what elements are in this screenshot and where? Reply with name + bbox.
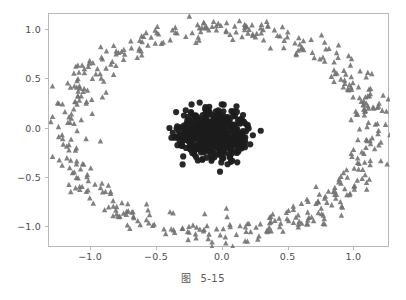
data-point-triangle [103,89,109,94]
data-point-circle [200,112,206,118]
data-point-triangle [304,196,310,201]
data-point-circle [235,146,241,152]
data-point-circle [187,141,193,147]
data-point-circle [188,101,194,107]
x-tick-mark [90,247,91,250]
data-point-triangle [342,186,348,191]
data-point-triangle [71,121,77,126]
data-point-triangle [248,229,254,234]
data-point-triangle [348,117,354,122]
data-point-triangle [322,39,328,44]
data-point-triangle [223,234,229,239]
data-point-triangle [308,37,314,42]
data-point-triangle [74,158,80,163]
data-point-triangle [386,96,390,101]
data-point-triangle [276,215,282,220]
data-point-triangle [193,231,199,236]
data-point-circle [172,135,178,141]
data-point-circle [240,112,246,118]
data-point-triangle [71,106,77,111]
data-point-triangle [148,34,154,39]
data-point-triangle [237,18,243,23]
data-point-triangle [125,201,131,206]
data-point-triangle [76,69,82,74]
data-point-triangle [295,212,301,217]
series-inner-blob [166,99,264,174]
data-point-triangle [98,138,104,143]
data-point-circle [197,99,203,105]
data-point-triangle [125,222,131,227]
y-tick-label: 0.5 [25,73,41,84]
data-point-triangle [167,209,173,214]
data-point-triangle [57,157,63,162]
data-point-circle [187,131,193,137]
data-point-triangle [66,182,72,187]
data-point-triangle [345,175,351,180]
data-point-triangle [362,159,368,164]
data-point-triangle [232,23,238,28]
data-point-triangle [243,229,249,234]
data-point-triangle [338,199,344,204]
data-point-triangle [186,224,192,229]
data-point-triangle [365,70,371,75]
data-point-circle [212,113,218,119]
data-point-triangle [223,240,229,245]
data-point-triangle [104,48,110,53]
data-point-triangle [185,237,191,242]
data-point-circle [234,109,240,115]
data-point-circle [209,131,215,137]
x-tick-label: 0.5 [280,251,296,262]
data-point-triangle [88,165,94,170]
data-point-triangle [230,244,236,248]
data-point-triangle [110,198,116,203]
data-point-triangle [357,126,363,131]
data-point-triangle [106,182,112,187]
data-point-triangle [81,86,87,91]
x-tick-mark [156,247,157,250]
y-tick-label: −0.5 [17,171,41,182]
data-point-circle [189,150,195,156]
data-point-triangle [253,224,259,229]
data-point-triangle [234,232,240,237]
data-point-triangle [387,132,390,137]
data-point-triangle [129,45,135,50]
data-point-triangle [239,34,245,39]
data-point-triangle [318,205,324,210]
data-point-triangle [209,24,215,29]
data-point-triangle [336,42,342,47]
data-point-triangle [204,223,210,228]
data-point-triangle [376,101,382,106]
x-tick-mark [222,247,223,250]
data-point-circle [180,161,186,167]
x-tick-label: −1.0 [78,251,102,262]
data-point-triangle [98,44,104,49]
data-point-triangle [258,221,264,226]
data-point-triangle [93,71,99,76]
data-point-circle [166,125,172,131]
data-point-triangle [380,92,386,97]
data-point-triangle [360,167,366,172]
data-point-circle [185,114,191,120]
data-point-triangle [84,99,90,104]
data-point-circle [206,111,212,117]
data-point-triangle [350,80,356,85]
data-point-circle [178,142,184,148]
data-point-triangle [144,201,150,206]
data-point-triangle [224,206,230,211]
data-point-circle [183,107,189,113]
figure-page: −1.0−0.50.00.51.0−1.0−0.50.00.51.0 图5-15 [0,0,406,300]
data-point-triangle [331,79,337,84]
x-tick-label: 1.0 [346,251,362,262]
data-point-triangle [121,57,127,62]
data-point-triangle [352,183,358,188]
data-point-circle [217,169,223,175]
data-point-circle [221,102,227,108]
data-point-triangle [163,231,169,236]
figure-caption: 图5-15 [0,270,406,285]
data-point-triangle [272,27,278,32]
data-point-triangle [323,194,329,199]
data-point-triangle [256,233,262,238]
data-point-circle [180,153,186,159]
data-point-triangle [350,94,356,99]
data-point-triangle [78,166,84,171]
